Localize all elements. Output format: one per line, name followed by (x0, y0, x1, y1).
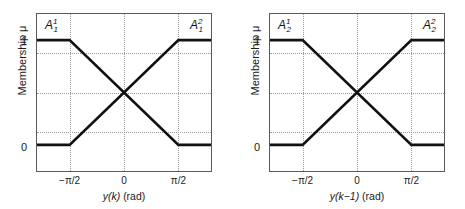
membership-functions-figure: Membership μ A11 A21 1 0 (0, 0, 465, 209)
x-tick-neg-halfpi-right: −π/2 (292, 176, 313, 186)
y-tick-0-left: 0 (0, 141, 27, 152)
plot-area-right: A12 A22 1 0 −π/2 0 π/2 (269, 13, 445, 172)
y-axis-label-left: Membership μ (17, 0, 28, 126)
set-label-sub: 1 (53, 25, 57, 34)
set-label-sub: 2 (432, 25, 436, 34)
x-axis-label-unit: (rad) (123, 190, 145, 202)
set-label-right-high: A22 (423, 19, 436, 31)
x-axis-label-variable: y(k) (103, 190, 121, 202)
y-tick-1-right: 1 (230, 35, 260, 46)
y-tick-1-left: 1 (0, 35, 27, 46)
set-label-base: A (190, 18, 198, 32)
x-tick-zero-right: 0 (354, 176, 360, 186)
set-label-base: A (278, 18, 286, 32)
panel-right: Membership μ A12 A22 1 0 −π/2 0 π/2 (233, 0, 465, 209)
x-tick-pos-halfpi-right: π/2 (404, 176, 419, 186)
y-tick-0-right: 0 (230, 141, 260, 152)
curve-a1-2 (37, 40, 211, 145)
membership-curves-left (37, 14, 211, 171)
set-label-left-high: A21 (190, 19, 203, 31)
curve-a2-2 (270, 40, 444, 145)
set-label-base: A (45, 18, 53, 32)
x-tick-zero-left: 0 (121, 176, 127, 186)
membership-curves-right (270, 14, 444, 171)
x-axis-label-left: y(k) (rad) (36, 191, 212, 202)
set-label-sub: 1 (199, 25, 203, 34)
panel-left: Membership μ A11 A21 1 0 (0, 0, 232, 209)
set-label-left-low: A11 (45, 19, 58, 31)
x-tick-pos-halfpi-left: π/2 (171, 176, 186, 186)
set-label-sub: 2 (286, 25, 290, 34)
set-label-right-low: A12 (278, 19, 291, 31)
x-axis-label-right: y(k−1) (rad) (269, 191, 445, 202)
y-axis-label-right: Membership μ (250, 0, 261, 126)
set-label-base: A (423, 18, 431, 32)
x-axis-label-variable: y(k−1) (330, 190, 359, 202)
plot-area-left: A11 A21 1 0 −π/2 0 π/2 (36, 13, 212, 172)
x-tick-neg-halfpi-left: −π/2 (59, 176, 80, 186)
x-axis-label-unit: (rad) (362, 190, 384, 202)
